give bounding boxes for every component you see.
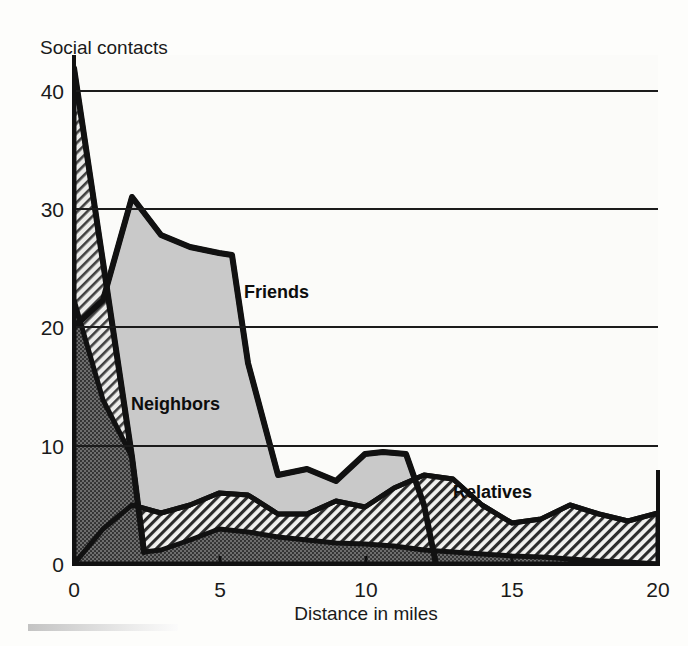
y-axis-title: Social contacts (40, 37, 168, 58)
xtick-label-0: 0 (68, 578, 80, 601)
ytick-label-30: 30 (41, 198, 64, 221)
series-label-neighbors: Neighbors (131, 394, 220, 414)
ytick-label-40: 40 (41, 80, 64, 103)
social-contacts-area-chart: 40 30 20 10 0 0 5 10 15 20 Social contac… (0, 0, 688, 646)
xtick-label-10: 10 (354, 578, 377, 601)
series-label-relatives: Relatives (453, 482, 532, 502)
xtick-label-20: 20 (646, 578, 669, 601)
x-axis-title: Distance in miles (294, 603, 438, 624)
ytick-label-0: 0 (52, 553, 64, 576)
xtick-label-5: 5 (214, 578, 226, 601)
ytick-label-20: 20 (41, 316, 64, 339)
ytick-label-10: 10 (41, 435, 64, 458)
series-label-friends: Friends (244, 282, 309, 302)
xtick-label-15: 15 (500, 578, 523, 601)
page-edge-artifact (28, 624, 178, 631)
